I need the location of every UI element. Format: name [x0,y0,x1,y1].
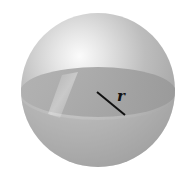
radius-label: r [117,87,126,105]
sphere-diagram: r [0,0,188,185]
sphere-figure: r [0,0,188,185]
